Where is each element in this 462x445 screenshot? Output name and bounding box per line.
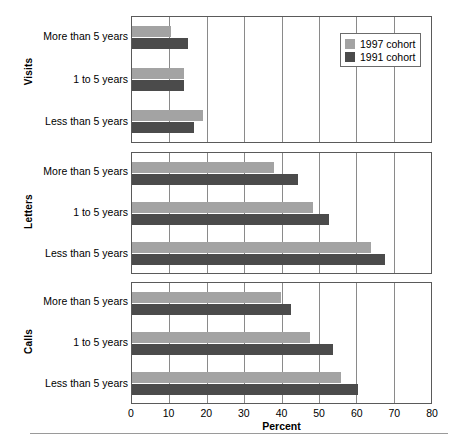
legend: 1997 cohort1991 cohort xyxy=(340,33,421,67)
bar-1997-cohort xyxy=(132,372,341,383)
legend-label: 1997 cohort xyxy=(360,38,415,50)
bar-1997-cohort xyxy=(132,26,171,37)
bar-group xyxy=(132,100,431,142)
bar-1997-cohort xyxy=(132,202,313,213)
legend-label: 1991 cohort xyxy=(360,51,415,63)
x-tick-80: 80 xyxy=(426,407,438,419)
bar-group xyxy=(132,153,431,193)
category-labels-visits: More than 5 years1 to 5 yearsLess than 5… xyxy=(36,16,128,143)
panel-label-visits: Visits xyxy=(23,50,34,94)
panel-letters xyxy=(131,152,432,274)
x-tick-70: 70 xyxy=(389,407,401,419)
bar-1991-cohort xyxy=(132,254,385,265)
bar-1997-cohort xyxy=(132,332,310,343)
chart-figure: Visits More than 5 years1 to 5 yearsLess… xyxy=(0,0,462,445)
panel-label-calls: Calls xyxy=(23,320,34,364)
category-tick-label: More than 5 years xyxy=(38,31,128,42)
x-tick-10: 10 xyxy=(163,407,175,419)
bar-1991-cohort xyxy=(132,38,188,49)
bar-1991-cohort xyxy=(132,384,358,395)
bar-1997-cohort xyxy=(132,68,184,79)
x-tick-50: 50 xyxy=(313,407,325,419)
category-tick-label: Less than 5 years xyxy=(38,378,128,389)
x-tick-40: 40 xyxy=(276,407,288,419)
bar-1997-cohort xyxy=(132,162,274,173)
bar-group xyxy=(132,233,431,273)
panel-calls xyxy=(131,282,432,404)
x-tick-20: 20 xyxy=(200,407,212,419)
category-tick-label: 1 to 5 years xyxy=(38,74,128,85)
bar-1997-cohort xyxy=(132,292,281,303)
x-tick-60: 60 xyxy=(351,407,363,419)
category-labels-letters: More than 5 years1 to 5 yearsLess than 5… xyxy=(36,152,128,274)
category-tick-label: Less than 5 years xyxy=(38,248,128,259)
legend-item: 1997 cohort xyxy=(345,37,415,50)
bar-group xyxy=(132,323,431,363)
bar-1991-cohort xyxy=(132,174,298,185)
x-axis-tick-labels: 01020304050607080 xyxy=(131,407,432,421)
category-tick-label: 1 to 5 years xyxy=(38,337,128,348)
legend-item: 1991 cohort xyxy=(345,50,415,63)
bar-1991-cohort xyxy=(132,122,194,133)
bar-1991-cohort xyxy=(132,80,184,91)
category-tick-label: More than 5 years xyxy=(38,296,128,307)
bar-1991-cohort xyxy=(132,214,329,225)
bar-group xyxy=(132,283,431,323)
category-tick-label: More than 5 years xyxy=(38,166,128,177)
x-axis-title: Percent xyxy=(131,420,432,432)
category-labels-calls: More than 5 years1 to 5 yearsLess than 5… xyxy=(36,282,128,404)
bar-group xyxy=(132,363,431,403)
x-tick-30: 30 xyxy=(238,407,250,419)
category-tick-label: Less than 5 years xyxy=(38,116,128,127)
bars-calls xyxy=(132,283,431,403)
panel-label-letters: Letters xyxy=(23,190,34,234)
category-tick-label: 1 to 5 years xyxy=(38,207,128,218)
bar-group xyxy=(132,193,431,233)
bar-1997-cohort xyxy=(132,110,203,121)
bars-letters xyxy=(132,153,431,273)
legend-swatch-icon xyxy=(345,39,355,49)
bar-1991-cohort xyxy=(132,304,291,315)
footer-divider xyxy=(30,433,448,434)
bar-1991-cohort xyxy=(132,344,333,355)
x-tick-0: 0 xyxy=(128,407,134,419)
bar-1997-cohort xyxy=(132,242,371,253)
legend-swatch-icon xyxy=(345,52,355,62)
